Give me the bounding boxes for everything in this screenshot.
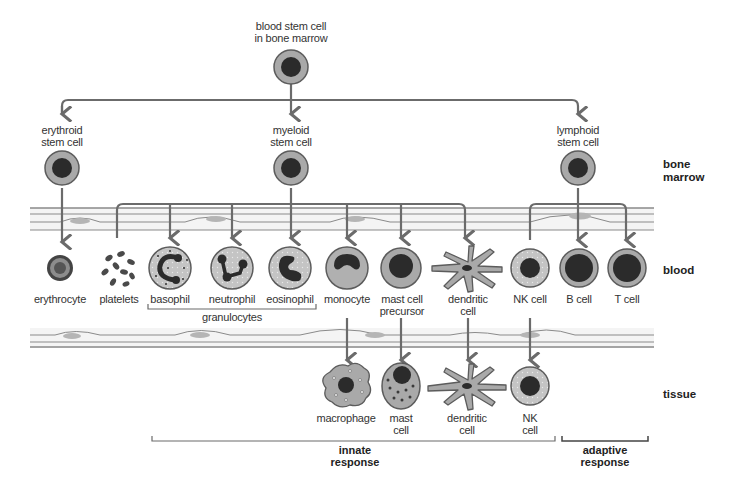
mast-cell-precursor-label: mast cell precursor [380, 293, 425, 317]
b-cell-label: B cell [566, 293, 592, 305]
adaptive-response-bracket [562, 436, 648, 441]
innate-response-label: innate response [331, 444, 380, 468]
innate-response-bracket [152, 436, 555, 441]
adaptive-response-label: adaptive response [581, 444, 630, 468]
nk-cell-tissue-label: NK cell [522, 412, 538, 436]
t-cell-label: T cell [615, 293, 640, 305]
basophil-label: basophil [150, 293, 189, 305]
dendritic-cell-label: dendritic cell [448, 293, 488, 317]
neutrophil-label: neutrophil [209, 293, 255, 305]
platelets-label: platelets [99, 293, 138, 305]
zone-bone-marrow-label: bone marrow [663, 158, 705, 184]
monocyte-label: monocyte [324, 293, 370, 305]
nk-cell [511, 249, 549, 287]
eosinophil-cell [269, 247, 311, 289]
lymphoid-stem-cell [561, 151, 595, 185]
blood-stem-cell [274, 50, 308, 84]
basophil-cell [149, 247, 191, 289]
blood-stem-cell-label: blood stem cell in bone marrow [254, 20, 327, 44]
mast-cell-label: mast cell [389, 412, 412, 436]
eosinophil-label: eosinophil [266, 293, 314, 305]
erythrocyte-cell [47, 255, 73, 281]
nk-cell-label: NK cell [513, 293, 546, 305]
nk-cell-tissue [511, 367, 549, 405]
dendritic-cell-tissue-label: dendritic cell [447, 412, 487, 436]
granulocytes-label: granulocytes [202, 311, 262, 323]
erythrocyte-label: erythrocyte [34, 293, 86, 305]
neutrophil-cell [211, 247, 253, 289]
macrophage-cell [323, 363, 371, 406]
zone-tissue-label: tissue [663, 388, 696, 401]
myeloid-stem-cell-label: myeloid stem cell [270, 124, 312, 148]
macrophage-label: macrophage [316, 412, 375, 424]
lymphoid-stem-cell-label: lymphoid stem cell [557, 124, 599, 148]
erythroid-stem-cell [45, 151, 79, 185]
erythroid-stem-cell-label: erythroid stem cell [41, 124, 83, 148]
mast-cell-precursor-cell [381, 248, 421, 288]
monocyte-cell [326, 247, 368, 289]
myeloid-stem-cell [274, 151, 308, 185]
t-cell [608, 249, 646, 287]
mast-cell [382, 363, 420, 409]
platelets-cell [100, 250, 136, 287]
zone-blood-label: blood [663, 264, 694, 277]
dendritic-cell [432, 246, 502, 292]
upper-vessel-wall [30, 208, 654, 230]
dendritic-cell-tissue [428, 364, 506, 410]
lower-vessel-wall [30, 328, 654, 348]
b-cell [560, 249, 598, 287]
